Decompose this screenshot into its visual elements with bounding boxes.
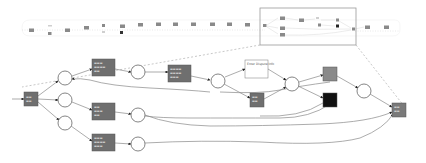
process-diagram: ▬▬▬ ▬▬▬▬ ▬▬ ▬▬ ▬▬▬ ▬▬ ▬▬▬ ▬▬▬▬ ▬▬▬ ▬▬▬▬ … — [0, 0, 426, 163]
place — [211, 74, 225, 88]
detail-view: ▬▬▬ ▬▬▬▬ ▬▬ ▬▬ ▬▬▬ ▬▬ ▬▬▬ ▬▬▬▬ ▬▬▬ ▬▬▬▬ … — [12, 59, 406, 151]
place — [58, 71, 72, 85]
place — [58, 93, 72, 107]
place — [131, 65, 145, 79]
place — [131, 137, 145, 151]
place — [285, 77, 299, 91]
overview-transitions — [29, 17, 389, 37]
transition-silent[interactable] — [323, 93, 337, 107]
transition-labels: ▬▬▬ ▬▬▬▬ ▬▬ ▬▬ ▬▬▬ ▬▬ ▬▬▬ ▬▬▬▬ ▬▬▬ ▬▬▬▬ … — [26, 61, 400, 148]
svg-text:Enter Dispute Info: Enter Dispute Info — [247, 62, 274, 66]
transition-gray-right[interactable] — [323, 67, 337, 81]
svg-text:▬▬: ▬▬ — [394, 109, 400, 113]
svg-text:▬▬: ▬▬ — [94, 113, 100, 117]
svg-text:▬▬: ▬▬ — [252, 99, 258, 103]
svg-text:▬▬▬: ▬▬▬ — [170, 75, 179, 79]
place — [131, 108, 145, 122]
svg-text:▬▬▬: ▬▬▬ — [94, 144, 103, 148]
svg-text:▬▬: ▬▬ — [94, 69, 100, 73]
overview-highlight-box[interactable] — [260, 8, 356, 45]
place — [58, 116, 72, 130]
place — [357, 84, 371, 98]
svg-text:▬▬: ▬▬ — [26, 99, 32, 103]
overview-strip[interactable] — [22, 8, 400, 45]
